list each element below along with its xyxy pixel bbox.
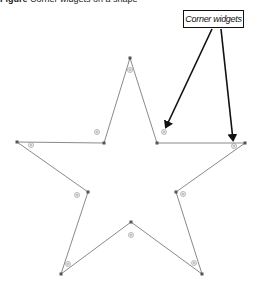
vertex-handle[interactable]	[244, 142, 247, 145]
corner-widget-icon[interactable]	[181, 192, 186, 197]
vertex-handle[interactable]	[103, 142, 106, 145]
star-shape[interactable]	[17, 58, 245, 274]
vertex-handle[interactable]	[87, 191, 90, 194]
callout-arrows	[166, 29, 233, 140]
corner-widget-icon[interactable]	[129, 233, 134, 238]
vertex-handle[interactable]	[129, 57, 132, 60]
corner-widget-icon[interactable]	[192, 261, 197, 266]
vertex-handle[interactable]	[16, 141, 19, 144]
vertex-handle[interactable]	[156, 142, 159, 145]
corner-widget-icon[interactable]	[128, 68, 133, 73]
vertex-handle[interactable]	[60, 273, 63, 276]
vertex-handle[interactable]	[130, 221, 133, 224]
arrow-icon	[166, 29, 212, 127]
arrow-icon	[221, 29, 233, 140]
corner-widget-icon[interactable]	[232, 144, 237, 149]
callout-box: Corner widgets	[183, 10, 244, 28]
corner-widget-icon[interactable]	[66, 262, 71, 267]
corner-widget-icon[interactable]	[162, 130, 167, 135]
corner-widget-icon[interactable]	[95, 130, 100, 135]
corner-widget-icon[interactable]	[75, 193, 80, 198]
corner-widget-icon[interactable]	[29, 143, 34, 148]
star-diagram	[0, 0, 262, 285]
vertex-handle[interactable]	[201, 273, 204, 276]
vertex-handle[interactable]	[175, 191, 178, 194]
corner-widgets	[29, 68, 237, 267]
callout-label: Corner widgets	[185, 14, 241, 24]
